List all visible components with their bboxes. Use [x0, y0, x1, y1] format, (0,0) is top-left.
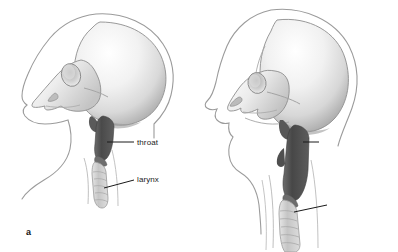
- larynx-trachea-a: [92, 162, 108, 208]
- anatomy-figure: throat larynx a: [0, 0, 398, 252]
- neck-contour-b-2: [262, 180, 266, 250]
- leader-line-a-larynx: [104, 180, 134, 188]
- panel-a-infant: throat larynx a: [0, 0, 199, 252]
- panel-b-illustration: [199, 0, 398, 252]
- panel-b-adult: throat larynx b: [199, 0, 398, 252]
- neck-contour-b-3: [311, 160, 318, 248]
- label-larynx-a: larynx: [137, 176, 159, 184]
- panel-letter-a: a: [26, 228, 31, 237]
- label-throat-a: throat: [137, 139, 158, 147]
- neck-contour-a-2: [112, 150, 118, 206]
- panel-a-illustration: [0, 0, 199, 252]
- neck-contour-b-1: [269, 175, 273, 248]
- pharynx-a: [95, 116, 114, 161]
- neck-contour-a-1: [84, 158, 88, 204]
- leader-line-b-larynx: [294, 205, 327, 212]
- oropharynx-notch-b: [277, 148, 285, 167]
